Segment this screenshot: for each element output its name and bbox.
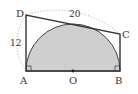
label-o: O [69, 75, 77, 86]
label-dc-length: 20 [69, 9, 81, 19]
center-point-o [72, 70, 75, 73]
label-ad-length: 12 [10, 38, 21, 48]
label-b: B [115, 75, 122, 86]
geometry-diagram: D 20 C 12 A O B [0, 0, 138, 94]
diagram-canvas: D 20 C 12 A O B [0, 0, 138, 94]
label-a: A [19, 75, 28, 86]
label-c: C [122, 29, 130, 40]
label-d: D [16, 8, 24, 19]
